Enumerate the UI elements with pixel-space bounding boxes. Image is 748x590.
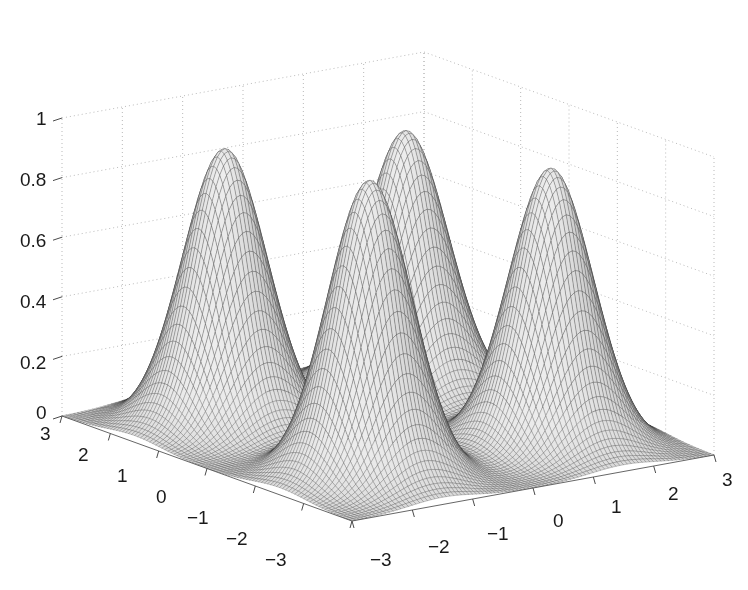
x-axis-tick-label-3: 0 [553,511,564,530]
y-axis-tick-label-3: 0 [156,487,167,506]
y-axis-tick-label-1: 2 [78,445,89,464]
z-axis-tick-label-2: 0.6 [20,231,46,250]
x-axis-tick-label-4: 1 [611,497,622,516]
x-axis-tick-label-2: −1 [487,524,509,543]
x-axis-tick-label-5: 2 [668,484,679,503]
y-axis-tick-label-4: −1 [187,508,209,527]
surface-plot-canvas [0,0,748,590]
x-axis-tick-label-0: −3 [370,550,392,569]
z-axis-tick-label-0: 1 [36,109,47,128]
figure-3d-surface-plot: 10.80.60.40.203210−1−2−3−3−2−10123 [0,0,748,590]
x-axis-tick-label-6: 3 [722,470,733,489]
y-axis-tick-label-0: 3 [40,424,51,443]
y-axis-tick-label-2: 1 [117,466,128,485]
z-axis-tick-label-5: 0 [36,403,47,422]
y-axis-tick-label-5: −2 [226,529,248,548]
z-axis-tick-label-3: 0.4 [20,292,46,311]
x-axis-tick-label-1: −2 [428,537,450,556]
z-axis-tick-label-4: 0.2 [20,353,46,372]
z-axis-tick-label-1: 0.8 [20,170,46,189]
y-axis-tick-label-6: −3 [265,550,287,569]
